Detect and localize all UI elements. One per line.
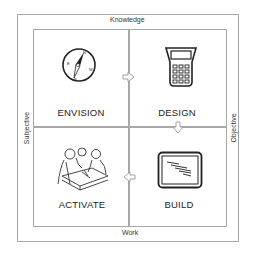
quadrant-label-build: BUILD xyxy=(139,199,219,210)
svg-text:N: N xyxy=(83,50,86,55)
monitor-icon xyxy=(157,151,203,189)
quadrant-label-design: DESIGN xyxy=(137,107,217,118)
axis-label-objective: Objective xyxy=(230,108,237,148)
quadrant-label-activate: ACTIVATE xyxy=(42,199,122,210)
vertical-divider xyxy=(128,29,130,227)
calculator-icon xyxy=(163,44,199,88)
compass-icon: N E W S xyxy=(60,44,98,86)
arrow-right-icon xyxy=(122,71,136,83)
svg-text:S: S xyxy=(74,77,77,82)
horizontal-divider xyxy=(33,126,227,128)
svg-text:E: E xyxy=(67,61,70,66)
axis-label-subjective: Subjective xyxy=(23,108,30,148)
arrow-down-icon xyxy=(171,121,185,135)
arrow-left-icon xyxy=(122,171,136,183)
quadrant-label-envision: ENVISION xyxy=(41,107,121,118)
axis-label-work: Work xyxy=(122,229,138,236)
axis-label-knowledge: Knowledge xyxy=(110,16,145,23)
svg-text:W: W xyxy=(89,67,93,72)
people-collaborating-icon xyxy=(52,146,112,192)
